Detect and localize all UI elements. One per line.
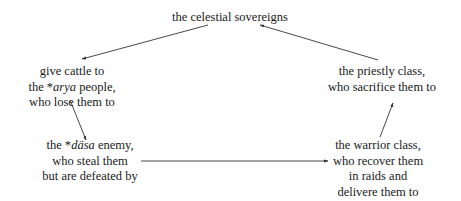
node-label-line: who recover them bbox=[333, 154, 423, 170]
arrow-sovereigns-to-arya bbox=[82, 25, 208, 59]
italic-term: arya bbox=[53, 80, 76, 94]
text-suffix: enemy, bbox=[95, 138, 134, 152]
node-celestial-sovereigns: the celestial sovereigns bbox=[172, 10, 288, 26]
node-label-line: the *dāsa enemy, bbox=[42, 138, 137, 154]
node-label-line: but are defeated by bbox=[42, 169, 137, 185]
node-dasa-enemy: the *dāsa enemy, who steal them but are … bbox=[42, 138, 137, 185]
node-label-line: the priestly class, bbox=[328, 64, 436, 80]
node-label-line: the warrior class, bbox=[333, 138, 423, 154]
node-priestly-class: the priestly class, who sacrifice them t… bbox=[328, 64, 436, 95]
node-label-line: give cattle to bbox=[28, 64, 115, 80]
node-label-line: who sacrifice them to bbox=[328, 80, 436, 96]
node-label-line: who lose them to bbox=[28, 95, 115, 111]
node-label-line: delivere them to bbox=[333, 185, 423, 201]
italic-term: dāsa bbox=[71, 138, 95, 152]
node-label-line: in raids and bbox=[333, 169, 423, 185]
node-arya-people: give cattle to the *arya people, who los… bbox=[28, 64, 115, 111]
node-label-line: who steal them bbox=[42, 154, 137, 170]
text-prefix: the * bbox=[46, 138, 71, 152]
node-label-line: the *arya people, bbox=[28, 80, 115, 96]
arrow-priestly-to-sovereigns bbox=[260, 25, 378, 60]
node-label: the celestial sovereigns bbox=[172, 10, 288, 26]
node-warrior-class: the warrior class, who recover them in r… bbox=[333, 138, 423, 200]
text-suffix: people, bbox=[76, 80, 116, 94]
text-prefix: the * bbox=[28, 80, 53, 94]
arrow-warrior-to-priestly bbox=[380, 103, 393, 137]
